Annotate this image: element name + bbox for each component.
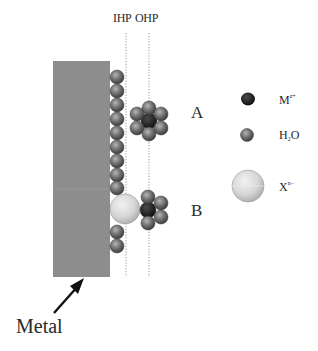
adsorbed-water-column [110,70,124,253]
legend-anion-label: Xn− [279,180,294,193]
ohp-label: OHP [135,12,158,24]
region-b-label: B [191,202,202,219]
region-a-label: A [191,104,203,121]
metal-label: Metal [16,316,63,336]
legend-water-icon [241,129,254,142]
legend-cation-icon [241,93,255,106]
cluster-a-hydrated-cation [130,101,168,141]
legend-water-label: H2O [279,129,299,142]
anion-sphere [110,194,140,224]
double-layer-diagram [0,0,318,351]
ihp-label: IHP [113,12,131,24]
cation-sphere [140,202,156,218]
cluster-b-adsorbed-anion [110,190,168,230]
metal-electrode [53,61,110,277]
legend-symbols [232,93,264,203]
legend-cation-label: Mz+ [279,93,296,106]
metal-pointer-arrow [54,278,84,313]
